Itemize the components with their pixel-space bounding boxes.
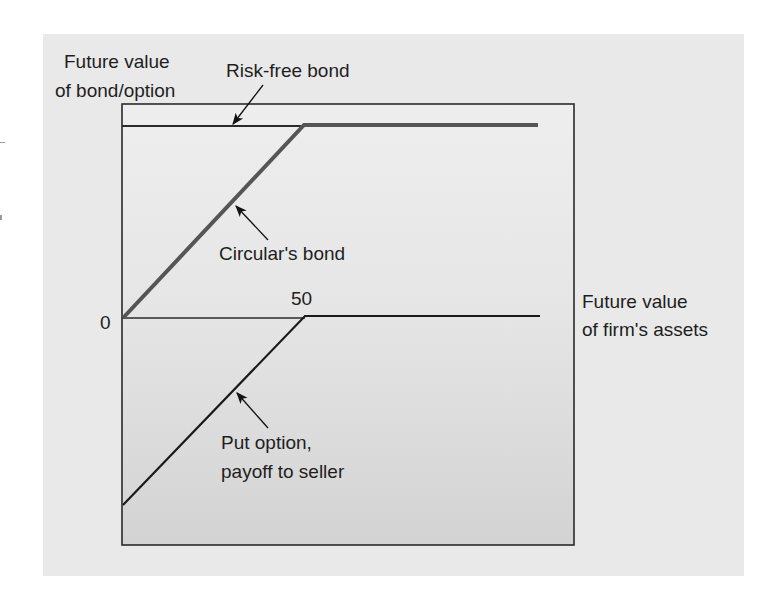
put-option-label-line1: Put option, [221,431,312,455]
strike-tick-label: 50 [291,287,312,311]
y-axis-label-line1: Future value [64,50,170,74]
put-option-label-line2: payoff to seller [221,460,344,484]
x-axis-label-line2: of firm's assets [582,318,708,342]
circulars-bond-label: Circular's bond [219,242,345,266]
plot-box [122,104,574,545]
risk-free-bond-label: Risk-free bond [226,59,350,83]
y-axis-label-line2: of bond/option [55,79,175,103]
x-axis-label-line1: Future value [582,290,688,314]
origin-tick-label: 0 [100,311,111,335]
